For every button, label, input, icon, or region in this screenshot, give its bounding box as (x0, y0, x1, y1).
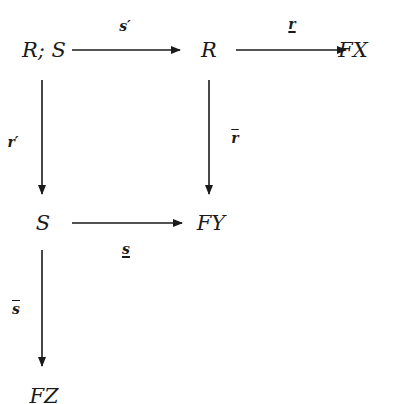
node-fy: FY (197, 211, 225, 235)
node-fx: FX (338, 38, 368, 62)
label-r-underline: r (288, 16, 295, 32)
label-r-prime: r′ (7, 134, 18, 150)
label-s-bar: s (12, 301, 20, 317)
node-r-semicolon-s: R; S (22, 38, 66, 62)
label-s-prime: s′ (119, 18, 131, 34)
node-s: S (36, 211, 50, 235)
node-r: R (201, 38, 217, 62)
label-s-underline: s (122, 241, 130, 257)
node-fz: FZ (29, 384, 58, 404)
label-r-bar: r (231, 130, 238, 146)
